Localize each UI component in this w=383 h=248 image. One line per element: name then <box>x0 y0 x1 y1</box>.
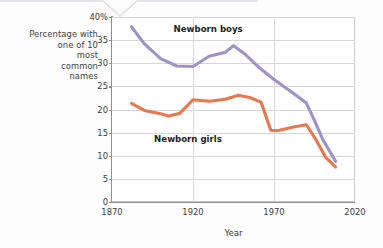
x-tick-label: 1970 <box>263 207 284 217</box>
y-axis-title-line: Percentage with <box>6 29 98 40</box>
y-tick-label: 25 <box>97 81 108 91</box>
y-tick-mark <box>109 202 113 203</box>
x-axis-title: Year <box>112 228 355 238</box>
y-tick-label: 0 <box>103 197 108 207</box>
y-tick-label: 20 <box>97 105 108 115</box>
x-tick-label: 2020 <box>344 207 365 217</box>
y-axis-title: Percentage with one of 10 most common na… <box>6 29 98 82</box>
series-label: Newborn boys <box>174 24 243 34</box>
chart-figure: Percentage with one of 10 most common na… <box>0 0 383 248</box>
y-axis-title-line: names <box>6 71 98 82</box>
series-line <box>131 95 335 167</box>
y-axis-title-line: common <box>6 61 98 72</box>
x-tick-label: 1920 <box>182 207 203 217</box>
plot-area: 0510152025303540% 1870192019702020 Newbo… <box>112 17 355 202</box>
y-tick-label: 35 <box>97 35 108 45</box>
y-tick-label: 40% <box>89 12 108 22</box>
series-label: Newborn girls <box>154 134 222 144</box>
series-lines <box>112 17 355 202</box>
y-tick-label: 10 <box>97 151 108 161</box>
x-tick-label: 1870 <box>101 207 122 217</box>
y-tick-label: 30 <box>97 58 108 68</box>
callout-tail-decoration <box>0 0 260 18</box>
y-tick-label: 15 <box>97 128 108 138</box>
y-axis-title-line: one of 10 <box>6 40 98 51</box>
y-axis-title-line: most <box>6 50 98 61</box>
y-tick-label: 5 <box>103 174 108 184</box>
